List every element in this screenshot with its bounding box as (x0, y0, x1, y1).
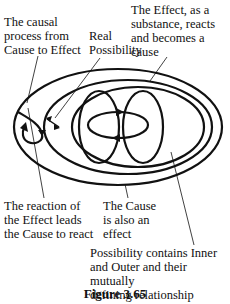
inner-left-ellipse (79, 91, 119, 163)
second-ellipse (44, 80, 212, 174)
arrowhead-left-icon (112, 134, 120, 142)
leader-possibility (171, 152, 194, 245)
leader-cause (125, 184, 128, 198)
leader-effect-substance (150, 57, 167, 81)
third-ellipse (72, 87, 204, 167)
leader-reaction (28, 108, 44, 198)
inner-right-ellipse (123, 91, 163, 163)
figure-caption: Figure 3.65 (0, 286, 230, 302)
leader-causal (27, 56, 38, 103)
arrowhead-right-icon (116, 108, 124, 116)
label-reaction-effect: The reaction of the Effect leads the Cau… (4, 199, 93, 241)
label-cause-effect: The Cause is also an effect (103, 199, 156, 241)
